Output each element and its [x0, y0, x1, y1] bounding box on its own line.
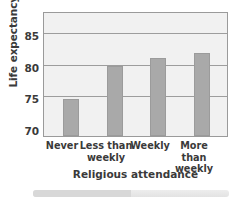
bar-never: [63, 99, 79, 136]
y-tick-label-80: 80: [17, 63, 39, 73]
x-tick-more-line1: More than: [167, 140, 221, 163]
x-tick-less-line2: weekly: [79, 152, 133, 164]
y-tick-label-85: 85: [17, 31, 39, 41]
bottom-strip: [33, 190, 229, 197]
bar-more-than-weekly: [194, 53, 210, 136]
gridline-85: [44, 33, 227, 34]
plot-area: [43, 12, 228, 137]
bottom-strip-fill: [33, 190, 131, 197]
y-tick-label-75: 75: [17, 94, 39, 104]
bar-less-than-weekly: [107, 66, 123, 136]
x-axis-title: Religious attendance: [43, 168, 228, 180]
y-tick-label-70: 70: [17, 126, 39, 136]
bar-chart-figure: Life expectancy, in years 85 80 75 70 Ne…: [0, 0, 246, 200]
bar-weekly: [150, 58, 166, 136]
